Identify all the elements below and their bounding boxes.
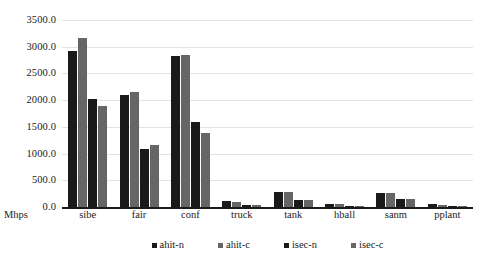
legend-swatch-icon (218, 243, 223, 248)
bar (304, 200, 313, 207)
bar (222, 201, 231, 207)
legend-item[interactable]: ahit-c (218, 240, 250, 251)
legend-label: ahit-c (226, 240, 250, 251)
bar (274, 192, 283, 207)
bar (252, 205, 261, 207)
bar (376, 193, 385, 207)
bar (448, 206, 457, 207)
bar (191, 122, 200, 207)
legend-item[interactable]: isec-n (284, 240, 317, 251)
x-tick-label: truck (216, 209, 267, 221)
y-tick-label: 2500.0 (27, 68, 56, 79)
bar-groups (62, 20, 473, 207)
bar (294, 200, 303, 207)
bar (284, 192, 293, 207)
bar (78, 38, 87, 207)
bar (396, 199, 405, 207)
chart-legend: ahit-nahit-cisec-nisec-c (62, 240, 473, 251)
y-tick-label: 0.0 (43, 202, 56, 213)
y-tick-label: 500.0 (32, 175, 56, 186)
bar-group (113, 20, 164, 207)
legend-label: ahit-n (160, 240, 185, 251)
bar (345, 206, 354, 207)
x-tick-label: fair (113, 209, 164, 221)
bar (68, 51, 77, 207)
bar (242, 205, 251, 207)
bar (458, 206, 467, 207)
bar-group (216, 20, 267, 207)
bar (181, 55, 190, 207)
y-tick-label: 1000.0 (27, 148, 56, 159)
x-tick-label: tank (268, 209, 319, 221)
bar-group (370, 20, 421, 207)
bar-group (319, 20, 370, 207)
legend-item[interactable]: ahit-n (152, 240, 185, 251)
y-tick-label: 1500.0 (27, 122, 56, 133)
bar (140, 149, 149, 207)
bar (201, 133, 210, 207)
bar (150, 145, 159, 207)
x-axis: sibefairconftrucktankhballsanmpplant (62, 209, 473, 221)
legend-label: isec-c (359, 240, 383, 251)
legend-label: isec-n (292, 240, 317, 251)
bar-group (165, 20, 216, 207)
y-tick-label: 3500.0 (27, 15, 56, 26)
y-axis: 3500.03000.02500.02000.01500.01000.0500.… (0, 0, 62, 220)
bar (325, 204, 334, 207)
bar (355, 206, 364, 207)
bar (171, 56, 180, 207)
bar (438, 205, 447, 207)
bar (130, 92, 139, 207)
bar (98, 106, 107, 207)
bar-group (62, 20, 113, 207)
bar (232, 202, 241, 207)
x-tick-label: pplant (422, 209, 473, 221)
x-tick-label: sibe (62, 209, 113, 221)
bar-group (268, 20, 319, 207)
bar (386, 193, 395, 207)
bar-group (422, 20, 473, 207)
y-axis-unit-label: Mhps (4, 210, 28, 221)
legend-swatch-icon (351, 243, 356, 248)
bar (406, 199, 415, 207)
y-tick-label: 2000.0 (27, 95, 56, 106)
bar (88, 99, 97, 207)
bar (428, 204, 437, 207)
legend-swatch-icon (152, 243, 157, 248)
x-tick-label: conf (165, 209, 216, 221)
x-tick-label: hball (319, 209, 370, 221)
x-tick-label: sanm (370, 209, 421, 221)
legend-item[interactable]: isec-c (351, 240, 383, 251)
bar (335, 204, 344, 207)
y-tick-label: 3000.0 (27, 41, 56, 52)
bar-chart: 3500.03000.02500.02000.01500.01000.0500.… (0, 0, 483, 267)
legend-swatch-icon (284, 243, 289, 248)
bar (120, 95, 129, 207)
